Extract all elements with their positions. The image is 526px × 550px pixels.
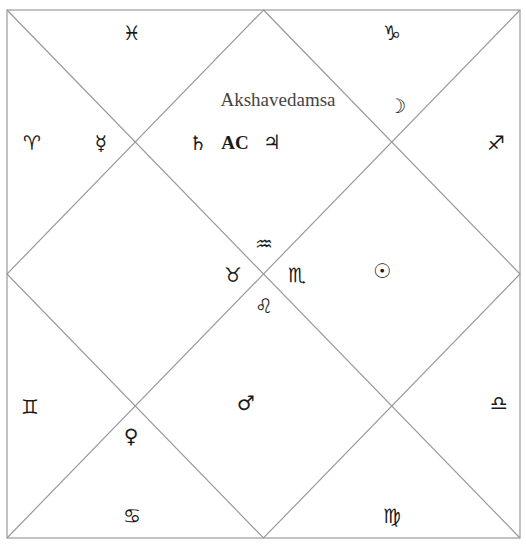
cancer-sign-icon: ♋ — [123, 506, 141, 526]
gemini-sign-icon: ♊ — [21, 397, 39, 417]
virgo-sign-icon: ♍ — [383, 506, 401, 526]
sagittarius-sign-icon: ♐ — [487, 133, 505, 153]
mars-planet-icon: ♂ — [237, 393, 255, 413]
mercury-planet-icon: ☿ — [95, 133, 107, 153]
pisces-sign-icon: ♓ — [123, 23, 141, 43]
sun-planet-icon: ☉ — [373, 261, 391, 281]
libra-sign-icon: ♎ — [490, 393, 508, 413]
saturn-planet-icon: ♄ — [189, 133, 207, 153]
scorpio-sign-icon: ♏ — [288, 265, 306, 285]
akshavedamsa-chart: Akshavedamsa ♓♑♈♐♒♉♏♌♊♎♋♍ ☽☿♄♃☉♂♀ AC — [0, 0, 526, 550]
aquarius-sign-icon: ♒ — [255, 234, 273, 254]
aries-sign-icon: ♈ — [23, 133, 41, 153]
venus-planet-icon: ♀ — [124, 426, 139, 446]
jupiter-planet-icon: ♃ — [263, 132, 281, 152]
taurus-sign-icon: ♉ — [224, 265, 242, 285]
leo-sign-icon: ♌ — [255, 296, 273, 316]
chart-title: Akshavedamsa — [220, 89, 335, 111]
moon-planet-icon: ☽ — [388, 96, 406, 116]
chart-grid — [0, 0, 526, 550]
ascendant-label: AC — [221, 132, 248, 154]
capricorn-sign-icon: ♑ — [383, 23, 401, 43]
